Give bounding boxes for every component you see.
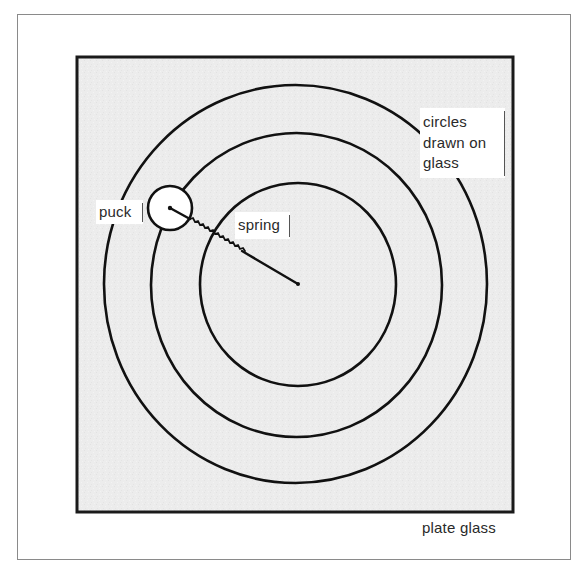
puck-label-text: puck — [99, 203, 132, 220]
puck-center-dot — [168, 206, 172, 210]
label-leader-line — [142, 203, 143, 222]
spring-label-text: spring — [238, 216, 280, 233]
circles-label-line-1: circles — [423, 112, 505, 133]
spring-label: spring — [235, 212, 290, 239]
puck-label: puck — [96, 200, 143, 224]
label-leader-line — [504, 111, 505, 176]
circles-label-line-2: drawn on — [423, 133, 505, 154]
label-leader-line — [289, 215, 290, 237]
circles-label-line-3: glass — [423, 153, 505, 174]
plate-glass-caption: plate glass — [422, 519, 496, 536]
circles-label: circles drawn on glass — [420, 108, 505, 178]
puck-on-glass-diagram — [0, 0, 586, 580]
center-point — [296, 282, 300, 286]
